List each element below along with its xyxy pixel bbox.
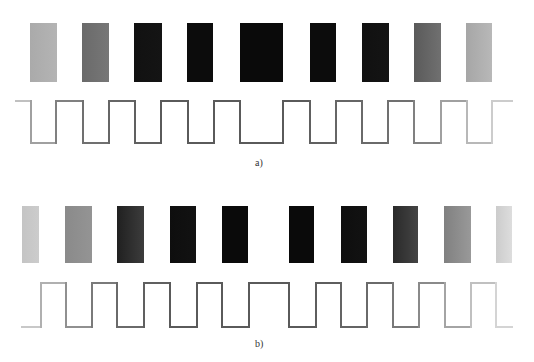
panel-b: b) bbox=[0, 0, 534, 362]
panel-label-b: b) bbox=[255, 338, 263, 349]
square-wave-b bbox=[0, 0, 534, 362]
